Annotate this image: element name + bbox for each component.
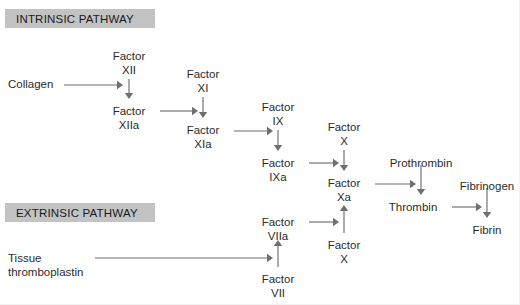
node-factor-x-upper-line: Factor (328, 121, 361, 135)
node-collagen: Collagen (8, 78, 53, 92)
node-factor-viia-line: Factor (262, 216, 295, 230)
node-factor-ixa-line: IXa (262, 171, 295, 185)
node-factor-xii-line: XII (113, 64, 146, 78)
node-factor-xa-line: Factor (328, 177, 361, 191)
node-factor-ix-line: Factor (262, 101, 295, 115)
node-factor-xa: FactorXa (328, 177, 361, 204)
node-factor-xii-line: Factor (113, 50, 146, 64)
arrowhead-icon (117, 81, 123, 89)
node-factor-viia: FactorVIIa (262, 216, 295, 243)
node-thrombin: Thrombin (389, 201, 438, 215)
arrow-tissue-thromboplastin-to-factor-viia (95, 254, 273, 262)
node-tissue-thromboplastin-line: Tissue (8, 252, 83, 266)
node-factor-xiia-line: XIIa (113, 119, 146, 133)
node-factor-x-lower-line: Factor (328, 239, 361, 253)
arrowhead-icon (125, 93, 133, 99)
arrowhead-icon (267, 254, 273, 262)
node-factor-vii: FactorVII (262, 273, 295, 300)
node-factor-x-lower-line: X (328, 253, 361, 267)
arrowhead-icon (410, 180, 416, 188)
node-factor-xi: FactorXI (187, 68, 220, 95)
arrow-factor-xiia-to-factor-xi (160, 107, 198, 115)
arrowhead-icon (333, 159, 339, 167)
arrowhead-icon (340, 165, 348, 171)
node-factor-viia-line: VIIa (262, 230, 295, 244)
node-fibrin: Fibrin (473, 224, 502, 238)
arrowhead-icon (274, 145, 282, 151)
arrow-collagen-to-factor-xii (64, 81, 123, 89)
node-factor-ix-line: IX (262, 115, 295, 129)
arrow-factor-x-upper-to-factor-xa (340, 150, 348, 171)
node-factor-xia-line: XIa (187, 138, 220, 152)
node-fibrinogen: Fibrinogen (460, 180, 514, 194)
arrowhead-icon (192, 107, 198, 115)
arrowhead-icon (267, 127, 273, 135)
node-factor-xi-line: XI (187, 82, 220, 96)
node-factor-ix: FactorIX (262, 101, 295, 128)
arrow-factor-ixa-to-factor-x-upper (309, 159, 339, 167)
node-factor-xa-line: Xa (328, 191, 361, 205)
arrow-factor-vii-to-factor-viia (274, 240, 282, 267)
node-factor-xi-line: Factor (187, 68, 220, 82)
node-factor-ixa-line: Factor (262, 157, 295, 171)
arrow-factor-xi-to-factor-xia (199, 97, 207, 118)
node-factor-vii-line: VII (262, 287, 295, 301)
arrow-factor-viia-to-factor-x-lower (309, 218, 339, 226)
arrow-factor-ix-to-factor-ixa (274, 130, 282, 151)
node-prothrombin: Prothrombin (390, 157, 453, 171)
node-collagen-line: Collagen (8, 78, 53, 92)
node-factor-x-upper-line: X (328, 135, 361, 149)
node-tissue-thromboplastin: Tissuethromboplastin (8, 252, 83, 279)
node-factor-xia-line: Factor (187, 124, 220, 138)
arrowhead-icon (199, 112, 207, 118)
coagulation-cascade-diagram: INTRINSIC PATHWAY EXTRINSIC PATHWAY Coll… (0, 0, 520, 305)
arrowhead-icon (340, 205, 348, 211)
arrow-factor-xii-to-factor-xiia (125, 79, 133, 99)
arrowhead-icon (476, 203, 482, 211)
node-factor-vii-line: Factor (262, 273, 295, 287)
arrow-thrombin-to-fibrinogen (452, 203, 482, 211)
arrow-factor-xia-to-factor-ix (234, 127, 273, 135)
node-factor-xia: FactorXIa (187, 124, 220, 151)
node-fibrin-line: Fibrin (473, 224, 502, 238)
node-factor-xiia: FactorXIIa (113, 105, 146, 132)
arrowhead-icon (333, 218, 339, 226)
node-factor-xii: FactorXII (113, 50, 146, 77)
arrow-factor-x-lower-to-factor-xa (340, 205, 348, 233)
node-factor-ixa: FactorIXa (262, 157, 295, 184)
arrow-factor-xa-to-prothrombin (375, 180, 416, 188)
arrowhead-icon (417, 189, 425, 195)
node-factor-xiia-line: Factor (113, 105, 146, 119)
node-factor-x-lower: FactorX (328, 239, 361, 266)
node-fibrinogen-line: Fibrinogen (460, 180, 514, 194)
arrowhead-icon (483, 212, 491, 218)
node-prothrombin-line: Prothrombin (390, 157, 453, 171)
node-factor-x-upper: FactorX (328, 121, 361, 148)
node-tissue-thromboplastin-line: thromboplastin (8, 266, 83, 280)
node-thrombin-line: Thrombin (389, 201, 438, 215)
